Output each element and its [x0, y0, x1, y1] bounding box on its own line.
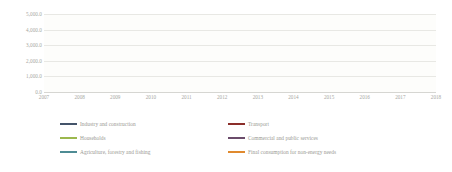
x-axis-tick-label: 2008 — [74, 94, 84, 101]
x-axis-tick-label: 2015 — [324, 94, 334, 101]
gridline — [44, 92, 436, 93]
gridline — [44, 14, 436, 15]
legend-label: Industry and construction — [80, 121, 136, 128]
x-axis-tick-label: 2011 — [181, 94, 191, 101]
legend-item[interactable]: Transport — [228, 118, 269, 130]
x-axis-tick-label: 2007 — [39, 94, 49, 101]
legend-label: Agriculture, forestry and fishing — [80, 149, 150, 156]
gridline — [44, 30, 436, 31]
legend-color-swatch — [60, 123, 77, 125]
y-axis-tick-label: 0.0 — [2, 89, 42, 95]
legend-label: Transport — [248, 121, 269, 128]
y-axis-tick-label: 4,000.0 — [2, 27, 42, 33]
legend-color-swatch — [228, 137, 245, 139]
legend-color-swatch — [60, 137, 77, 139]
legend-item[interactable]: Households — [60, 132, 106, 144]
x-axis-tick-label: 2016 — [360, 94, 370, 101]
y-axis-tick-label: 5,000.0 — [2, 11, 42, 17]
legend-item[interactable]: Agriculture, forestry and fishing — [60, 146, 150, 158]
x-axis-tick-label: 2013 — [253, 94, 263, 101]
x-axis-tick-label: 2014 — [288, 94, 298, 101]
x-axis-tick-label: 2017 — [395, 94, 405, 101]
x-axis-tick-label: 2009 — [110, 94, 120, 101]
x-axis-tick-label: 2010 — [146, 94, 156, 101]
legend-item[interactable]: Final consumption for non-energy needs — [228, 146, 336, 158]
legend-color-swatch — [228, 151, 245, 153]
legend-color-swatch — [228, 123, 245, 125]
gridline — [44, 45, 436, 46]
legend-label: Households — [80, 135, 106, 142]
x-axis-tick-label: 2012 — [217, 94, 227, 101]
plot-area — [44, 14, 436, 92]
plot-background — [44, 14, 436, 92]
y-axis-tick-label: 3,000.0 — [2, 42, 42, 48]
legend-item[interactable]: Industry and construction — [60, 118, 136, 130]
line-chart: 0.01,000.02,000.03,000.04,000.05,000.0 2… — [0, 0, 452, 172]
x-axis-tick-label: 2018 — [431, 94, 441, 101]
gridline — [44, 61, 436, 62]
y-axis-tick-label: 1,000.0 — [2, 73, 42, 79]
legend-label: Commercial and public services — [248, 135, 318, 142]
y-axis: 0.01,000.02,000.03,000.04,000.05,000.0 — [0, 14, 42, 92]
gridline — [44, 76, 436, 77]
legend-item[interactable]: Commercial and public services — [228, 132, 318, 144]
chart-legend: Industry and constructionTransportHouseh… — [0, 116, 452, 166]
y-axis-tick-label: 2,000.0 — [2, 58, 42, 64]
legend-label: Final consumption for non-energy needs — [248, 149, 336, 156]
legend-color-swatch — [60, 151, 77, 153]
x-axis: 2007200820092010201120122013201420152016… — [44, 94, 436, 106]
